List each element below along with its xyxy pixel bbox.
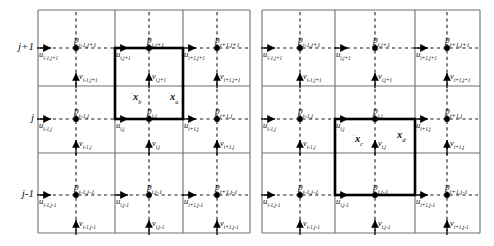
right-panel-v-label-1: vi,j+1 — [378, 71, 393, 83]
left-panel-u-label-5-text: ui+1,j — [184, 120, 199, 132]
right-panel-v-label-0: vi-1,j+1 — [303, 71, 322, 83]
row-label-row-jp1: j+1 — [6, 40, 34, 52]
left-panel-u-label-1-text: ui,j+1 — [116, 49, 131, 61]
right-panel-v-label-5-text: vi+1,j — [450, 138, 465, 150]
left-panel-u-label-7: ui,j-1 — [116, 196, 129, 208]
right-panel-u-label-4-text: ui,j — [336, 120, 345, 132]
left-panel-v-label-5-text: vi+1,j — [220, 138, 235, 150]
right-panel-particle-c: ˙xc — [353, 133, 363, 147]
left-panel-u-label-0-text: ui-1,j+1 — [39, 49, 59, 61]
right-panel-v-label-8: vi+1,j-1 — [450, 218, 469, 230]
left-panel-v-label-0: vi-1,j+1 — [79, 71, 98, 83]
left-panel-v-label-7: vi,j-1 — [152, 218, 165, 230]
right-panel-v-label-1-text: vi,j+1 — [378, 71, 393, 83]
right-panel-v-label-3-text: vi-1,j — [303, 138, 316, 150]
left-panel-particle-a-text: ˙xa — [168, 91, 178, 105]
left-panel-v-label-8-text: vi+1,j-1 — [220, 218, 239, 230]
right-panel-u-label-0: ui-1,j+1 — [263, 49, 283, 61]
left-panel-u-label-8-text: ui+1,j-1 — [184, 196, 204, 208]
right-panel-u-label-6: ui-1,j-1 — [263, 196, 281, 208]
right-panel-u-label-1-text: ui,j+1 — [336, 49, 351, 61]
right-panel-u-label-7: ui,j-1 — [336, 196, 349, 208]
left-panel-v-label-8: vi+1,j-1 — [220, 218, 239, 230]
right-panel-v-label-5: vi+1,j — [450, 138, 465, 150]
left-panel-v-label-7-text: vi,j-1 — [152, 218, 165, 230]
left-panel-u-label-2: ui+1,j+1 — [184, 49, 205, 61]
right-panel-u-label-8-text: ui+1,j-1 — [416, 196, 436, 208]
left-panel-v-label-4-text: vi,j — [152, 138, 161, 150]
left-panel-v-label-0-text: vi-1,j+1 — [79, 71, 98, 83]
left-panel-particle-b-text: ˙xb — [131, 91, 141, 105]
right-panel-u-label-2: ui+1,j+1 — [416, 49, 437, 61]
left-panel-u-label-4-text: ui,j — [116, 120, 125, 132]
left-panel-u-label-0: ui-1,j+1 — [39, 49, 59, 61]
left-panel-v-label-1-text: vi,j+1 — [152, 71, 167, 83]
right-panel-v-label-7: vi,j-1 — [378, 218, 391, 230]
left-panel-particle-a: ˙xa — [168, 91, 178, 105]
right-panel-v-label-3: vi-1,j — [303, 138, 316, 150]
left-panel-u-label-5: ui+1,j — [184, 120, 199, 132]
left-panel-u-label-3: ui-1,j — [39, 120, 52, 132]
row-label-row-jm1: j-1 — [6, 187, 34, 199]
right-panel-v-label-4: vi,j — [378, 138, 387, 150]
left-panel-v-label-6-text: vi-1,j-1 — [79, 218, 96, 230]
right-panel-v-label-2: vi+1,j+1 — [450, 71, 471, 83]
left-panel-v-label-2: vi+1,j+1 — [220, 71, 241, 83]
right-panel-u-label-0-text: ui-1,j+1 — [263, 49, 283, 61]
right-panel-u-label-4: ui,j — [336, 120, 345, 132]
right-panel-v-label-8-text: vi+1,j-1 — [450, 218, 469, 230]
left-panel-v-label-2-text: vi+1,j+1 — [220, 71, 241, 83]
right-panel-u-label-7-text: ui,j-1 — [336, 196, 349, 208]
figure-canvas: ui-1,j+1ui,j+1ui+1,j+1ui-1,jui,jui+1,jui… — [0, 0, 494, 246]
right-panel-u-label-5: ui+1,j — [416, 120, 431, 132]
right-panel-v-label-7-text: vi,j-1 — [378, 218, 391, 230]
right-panel-u-label-3: ui-1,j — [263, 120, 276, 132]
right-panel-v-label-0-text: vi-1,j+1 — [303, 71, 322, 83]
left-panel-v-label-6: vi-1,j-1 — [79, 218, 96, 230]
right-panel-v-label-6: vi-1,j-1 — [303, 218, 320, 230]
left-panel-u-label-7-text: ui,j-1 — [116, 196, 129, 208]
left-panel-v-label-3: vi-1,j — [79, 138, 92, 150]
right-panel-u-label-6-text: ui-1,j-1 — [263, 196, 281, 208]
right-panel-u-label-1: ui,j+1 — [336, 49, 351, 61]
left-panel-particle-b: ˙xb — [131, 91, 141, 105]
right-panel-particle-c-text: ˙xc — [353, 133, 363, 147]
right-panel-u-label-8: ui+1,j-1 — [416, 196, 436, 208]
left-panel-u-label-2-text: ui+1,j+1 — [184, 49, 205, 61]
right-panel-particle-d: ˙xd — [395, 129, 406, 143]
left-panel-u-label-6: ui-1,j-1 — [39, 196, 57, 208]
left-panel-v-label-3-text: vi-1,j — [79, 138, 92, 150]
left-panel-u-label-8: ui+1,j-1 — [184, 196, 204, 208]
right-panel-u-label-5-text: ui+1,j — [416, 120, 431, 132]
staggered-grid-svg: ui-1,j+1ui,j+1ui+1,j+1ui-1,jui,jui+1,jui… — [0, 0, 494, 246]
right-panel-particle-d-text: ˙xd — [395, 129, 406, 143]
left-panel-v-label-1: vi,j+1 — [152, 71, 167, 83]
right-panel-u-label-3-text: ui-1,j — [263, 120, 276, 132]
left-panel-u-label-4: ui,j — [116, 120, 125, 132]
left-panel-u-label-1: ui,j+1 — [116, 49, 131, 61]
left-panel-u-label-3-text: ui-1,j — [39, 120, 52, 132]
left-panel-v-label-4: vi,j — [152, 138, 161, 150]
right-panel-u-label-2-text: ui+1,j+1 — [416, 49, 437, 61]
left-panel-u-label-6-text: ui-1,j-1 — [39, 196, 57, 208]
right-panel-v-label-2-text: vi+1,j+1 — [450, 71, 471, 83]
left-panel-v-label-5: vi+1,j — [220, 138, 235, 150]
row-label-row-j: j — [6, 111, 34, 123]
right-panel-v-label-4-text: vi,j — [378, 138, 387, 150]
right-panel-v-label-6-text: vi-1,j-1 — [303, 218, 320, 230]
